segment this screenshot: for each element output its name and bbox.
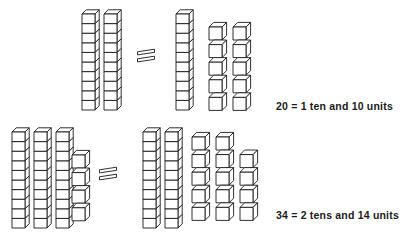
- unit-cube: [233, 22, 251, 40]
- unit-cube: [216, 185, 234, 203]
- cube-front-face: [104, 24, 117, 34]
- ten-rod-right-1: [176, 10, 193, 110]
- unit-cube: [233, 93, 251, 111]
- unit-cube: [233, 58, 251, 76]
- unit-cube: [192, 150, 210, 168]
- cube-front-face: [192, 190, 205, 203]
- unit-cube: [209, 93, 227, 111]
- cube-front-face: [216, 207, 229, 220]
- row-1-left-side: [82, 10, 121, 110]
- cube-front-face: [34, 190, 47, 200]
- cube-front-face: [176, 81, 189, 91]
- row-1-group: [82, 10, 251, 111]
- cube-front-face: [72, 190, 85, 203]
- rod-cube: [56, 128, 73, 142]
- unit-cubes-right-row-1: [209, 22, 251, 110]
- unit-cube: [192, 132, 210, 150]
- cube-front-face: [82, 14, 95, 24]
- unit-cube: [216, 203, 234, 221]
- ten-rod-left-2: [34, 128, 51, 228]
- cube-front-face: [104, 33, 117, 43]
- cube-front-face: [104, 43, 117, 53]
- unit-cube: [72, 186, 90, 204]
- cube-front-face: [12, 142, 25, 152]
- cube-front-face: [104, 72, 117, 82]
- cube-front-face: [216, 190, 229, 203]
- cube-front-face: [143, 170, 156, 180]
- cube-front-face: [56, 132, 69, 142]
- cube-front-face: [233, 27, 246, 40]
- cube-front-face: [143, 209, 156, 219]
- unit-cube: [72, 203, 90, 221]
- cube-front-face: [176, 72, 189, 82]
- caption-row-1: 20 = 1 ten and 10 units: [276, 100, 393, 112]
- cube-front-face: [176, 24, 189, 34]
- rod-cube: [176, 10, 193, 24]
- ten-rod-left-1: [82, 10, 99, 110]
- base-ten-blocks-illustration: [0, 0, 407, 234]
- unit-cube: [209, 22, 227, 40]
- cube-front-face: [104, 14, 117, 24]
- cube-front-face: [143, 132, 156, 142]
- cube-front-face: [143, 161, 156, 171]
- cube-front-face: [12, 218, 25, 228]
- cube-front-face: [12, 132, 25, 142]
- equals-sign-row-2: [100, 167, 117, 180]
- ten-rod-left-2: [104, 10, 121, 110]
- unit-cube: [72, 150, 90, 168]
- cube-front-face: [82, 72, 95, 82]
- unit-cube: [216, 132, 234, 150]
- equals-bar-2: [138, 56, 155, 62]
- cube-front-face: [34, 180, 47, 190]
- caption-row-2: 34 = 2 tens and 14 units: [276, 209, 399, 221]
- rod-cube: [104, 10, 121, 24]
- rod-cube: [12, 128, 29, 142]
- cube-front-face: [12, 151, 25, 161]
- unit-cube: [209, 58, 227, 76]
- cube-front-face: [165, 209, 178, 219]
- cube-front-face: [56, 209, 69, 219]
- unit-cube: [72, 168, 90, 186]
- equals-bar-1: [100, 167, 117, 173]
- cube-front-face: [34, 170, 47, 180]
- unit-cube: [192, 203, 210, 221]
- unit-cube: [240, 203, 258, 221]
- cube-front-face: [165, 151, 178, 161]
- unit-cube: [209, 40, 227, 58]
- unit-cube: [216, 150, 234, 168]
- cube-front-face: [56, 218, 69, 228]
- cube-front-face: [165, 142, 178, 152]
- cube-front-face: [165, 161, 178, 171]
- cube-front-face: [240, 155, 253, 168]
- row-2-left-side: [12, 128, 90, 228]
- cube-front-face: [56, 142, 69, 152]
- cube-front-face: [56, 151, 69, 161]
- cube-front-face: [104, 91, 117, 101]
- cube-front-face: [233, 97, 246, 110]
- cube-front-face: [192, 207, 205, 220]
- cube-front-face: [34, 132, 47, 142]
- cube-front-face: [176, 91, 189, 101]
- cube-front-face: [12, 209, 25, 219]
- cube-front-face: [12, 161, 25, 171]
- cube-front-face: [34, 209, 47, 219]
- cube-front-face: [34, 161, 47, 171]
- cube-front-face: [56, 199, 69, 209]
- ten-rod-left-3: [56, 128, 73, 228]
- cube-front-face: [34, 199, 47, 209]
- rod-cube: [143, 128, 160, 142]
- cube-front-face: [165, 190, 178, 200]
- row-2-group: [12, 128, 258, 228]
- row-2-right-side: [143, 128, 258, 228]
- cube-front-face: [165, 180, 178, 190]
- cube-front-face: [209, 62, 222, 75]
- cube-front-face: [72, 208, 85, 221]
- cube-front-face: [233, 45, 246, 58]
- unit-cube: [240, 150, 258, 168]
- cube-front-face: [104, 100, 117, 110]
- cube-front-face: [12, 190, 25, 200]
- cube-front-face: [143, 180, 156, 190]
- cube-front-face: [209, 45, 222, 58]
- cube-front-face: [216, 172, 229, 185]
- unit-cube: [192, 168, 210, 186]
